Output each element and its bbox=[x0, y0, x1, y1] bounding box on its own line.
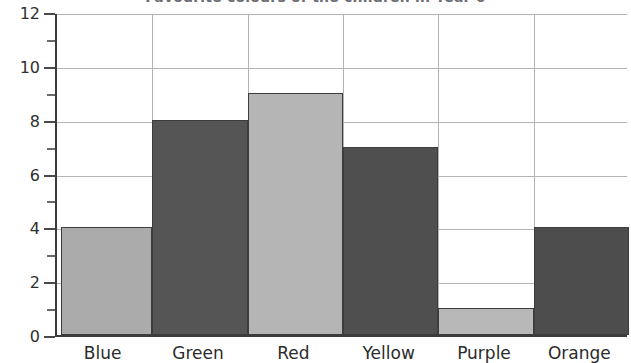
bar-red bbox=[248, 93, 343, 335]
y-tick-major bbox=[44, 282, 55, 284]
x-axis-label-red: Red bbox=[246, 345, 341, 362]
gridline-horizontal bbox=[57, 14, 627, 15]
gridline-vertical bbox=[438, 14, 439, 335]
chart-title: Favourite colours of the children in Yea… bbox=[0, 0, 631, 5]
bar-blue bbox=[61, 227, 152, 335]
plot-area bbox=[55, 14, 627, 337]
y-axis-label: 6 bbox=[14, 168, 40, 184]
bar-yellow bbox=[343, 147, 438, 335]
y-tick-major bbox=[44, 121, 55, 123]
y-tick-minor bbox=[47, 201, 55, 203]
y-tick-minor bbox=[47, 148, 55, 150]
y-tick-minor bbox=[47, 255, 55, 257]
y-tick-minor bbox=[47, 40, 55, 42]
bar-purple bbox=[438, 308, 533, 335]
y-tick-major bbox=[44, 67, 55, 69]
bar-orange bbox=[534, 227, 629, 335]
bar-green bbox=[152, 120, 247, 335]
y-tick-major bbox=[44, 13, 55, 15]
gridline-horizontal bbox=[57, 68, 627, 69]
y-axis-label: 12 bbox=[14, 6, 40, 22]
y-tick-minor bbox=[47, 94, 55, 96]
y-axis-label: 4 bbox=[14, 221, 40, 237]
y-axis-label: 8 bbox=[14, 114, 40, 130]
y-axis-label: 2 bbox=[14, 275, 40, 291]
x-axis-label-purple: Purple bbox=[436, 345, 531, 362]
y-tick-minor bbox=[47, 309, 55, 311]
x-axis-label-orange: Orange bbox=[532, 345, 627, 362]
y-axis-label: 10 bbox=[14, 60, 40, 76]
x-axis-label-blue: Blue bbox=[55, 345, 150, 362]
y-tick-major bbox=[44, 175, 55, 177]
y-tick-major bbox=[44, 336, 55, 338]
x-axis-label-yellow: Yellow bbox=[341, 345, 436, 362]
y-tick-major bbox=[44, 228, 55, 230]
y-axis-label: 0 bbox=[14, 329, 40, 345]
x-axis-label-green: Green bbox=[150, 345, 245, 362]
